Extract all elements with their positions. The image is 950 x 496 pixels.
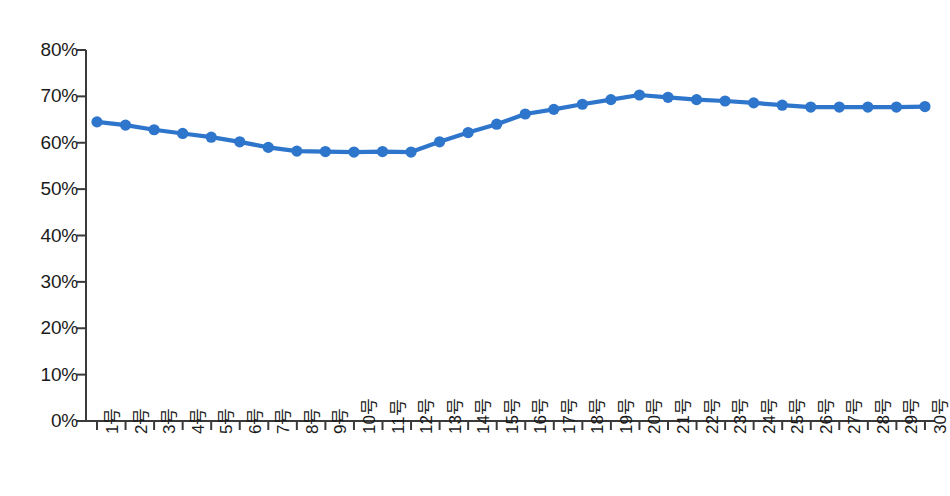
- x-tick-label: 5号: [218, 408, 235, 434]
- x-tick-label: 21号: [675, 398, 692, 434]
- x-tick-label: 22号: [704, 398, 721, 434]
- x-tick-label: 13号: [447, 398, 464, 434]
- x-tick-label: 16号: [532, 398, 549, 434]
- x-tick-label: 1号: [104, 408, 121, 434]
- x-tick-label: 15号: [504, 398, 521, 434]
- x-tick-label: 6号: [247, 408, 264, 434]
- x-tick-label: 29号: [903, 398, 920, 434]
- x-tick-label: 30号: [932, 398, 949, 434]
- x-tick-label: 2号: [133, 408, 150, 434]
- x-tick-label: 10号: [361, 398, 378, 434]
- x-tick-label: 18号: [589, 398, 606, 434]
- x-tick-label: 19号: [618, 398, 635, 434]
- x-tick-label: 4号: [190, 408, 207, 434]
- x-tick-label: 28号: [875, 398, 892, 434]
- x-tick-label: 17号: [561, 398, 578, 434]
- x-tick-label: 25号: [789, 398, 806, 434]
- x-tick-label: 7号: [275, 408, 292, 434]
- x-tick-label: 23号: [732, 398, 749, 434]
- x-tick-label: 26号: [818, 398, 835, 434]
- x-tick-label: 8号: [304, 408, 321, 434]
- x-tick-label: 3号: [161, 408, 178, 434]
- x-tick-label: 14号: [475, 398, 492, 434]
- x-tick-label: 27号: [846, 398, 863, 434]
- x-tick-label: 12号: [418, 398, 435, 434]
- x-tick-label: 11号: [390, 399, 407, 434]
- x-tick-label: 9号: [332, 408, 349, 434]
- x-tick-label: 24号: [761, 398, 778, 434]
- x-tick-label: 20号: [646, 398, 663, 434]
